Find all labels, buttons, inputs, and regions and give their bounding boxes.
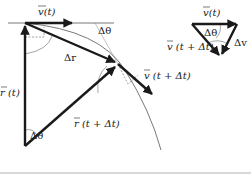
right-angle-marker-top — [25, 27, 44, 37]
label-delta-r: Δr — [64, 52, 76, 63]
label-delta-theta-bottom: Δθ — [30, 130, 43, 141]
label-r-t-dt: r (t + Δt) — [74, 118, 120, 129]
label-r-t: r (t) — [0, 87, 20, 98]
velocity-diagram: v(t) Δθ Δr r (t) v (t + Δt) r (t + Δt) Δ… — [0, 0, 251, 176]
inset-label-delta-theta: Δθ — [204, 27, 217, 38]
velocity-triangle-inset: v(t) Δθ Δv v (t + Δt) — [167, 7, 247, 55]
angle-arc-top — [25, 36, 52, 54]
inset-label-v-t: v(t) — [203, 7, 221, 18]
main-figure: v(t) Δθ Δr r (t) v (t + Δt) r (t + Δt) Δ… — [0, 6, 191, 150]
label-delta-theta-top: Δθ — [98, 25, 111, 36]
inset-label-v-t-dt: v (t + Δt) — [167, 41, 214, 52]
inset-label-delta-v: Δv — [234, 37, 247, 48]
bottom-rule — [0, 172, 251, 174]
label-v-t-dt: v (t + Δt) — [144, 70, 191, 81]
label-v-t: v(t) — [38, 6, 56, 17]
